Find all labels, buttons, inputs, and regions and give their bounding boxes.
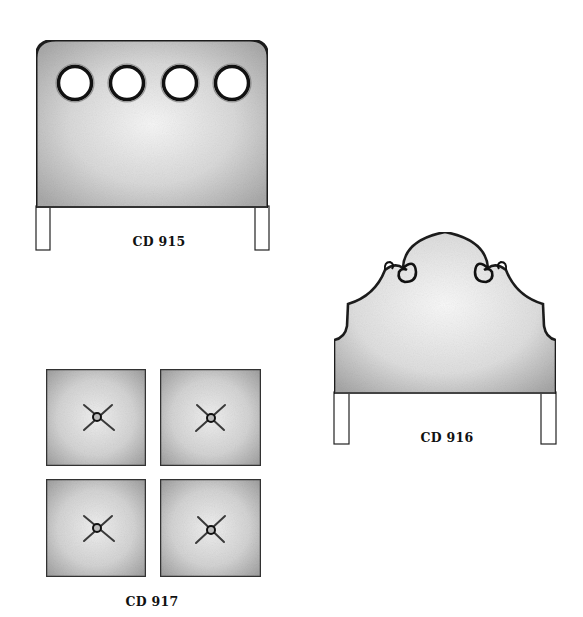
item-label-cd917: CD 917 — [125, 594, 178, 609]
leg-left — [334, 392, 349, 444]
item-label-cd916: CD 916 — [420, 430, 473, 445]
leg-right — [255, 206, 269, 250]
leg-left — [36, 206, 50, 250]
porthole — [59, 67, 92, 100]
porthole — [164, 67, 197, 100]
porthole — [111, 67, 144, 100]
item-label-cd915: CD 915 — [132, 234, 185, 249]
porthole — [216, 67, 249, 100]
headboard-cd915 — [36, 40, 269, 250]
headboard-panel — [334, 232, 556, 394]
leg-right — [541, 392, 556, 444]
catalog-page: CD 915 CD 916 CD 917 — [0, 0, 583, 617]
panel-set-cd917 — [46, 369, 261, 577]
headboard-cd916 — [334, 232, 556, 444]
